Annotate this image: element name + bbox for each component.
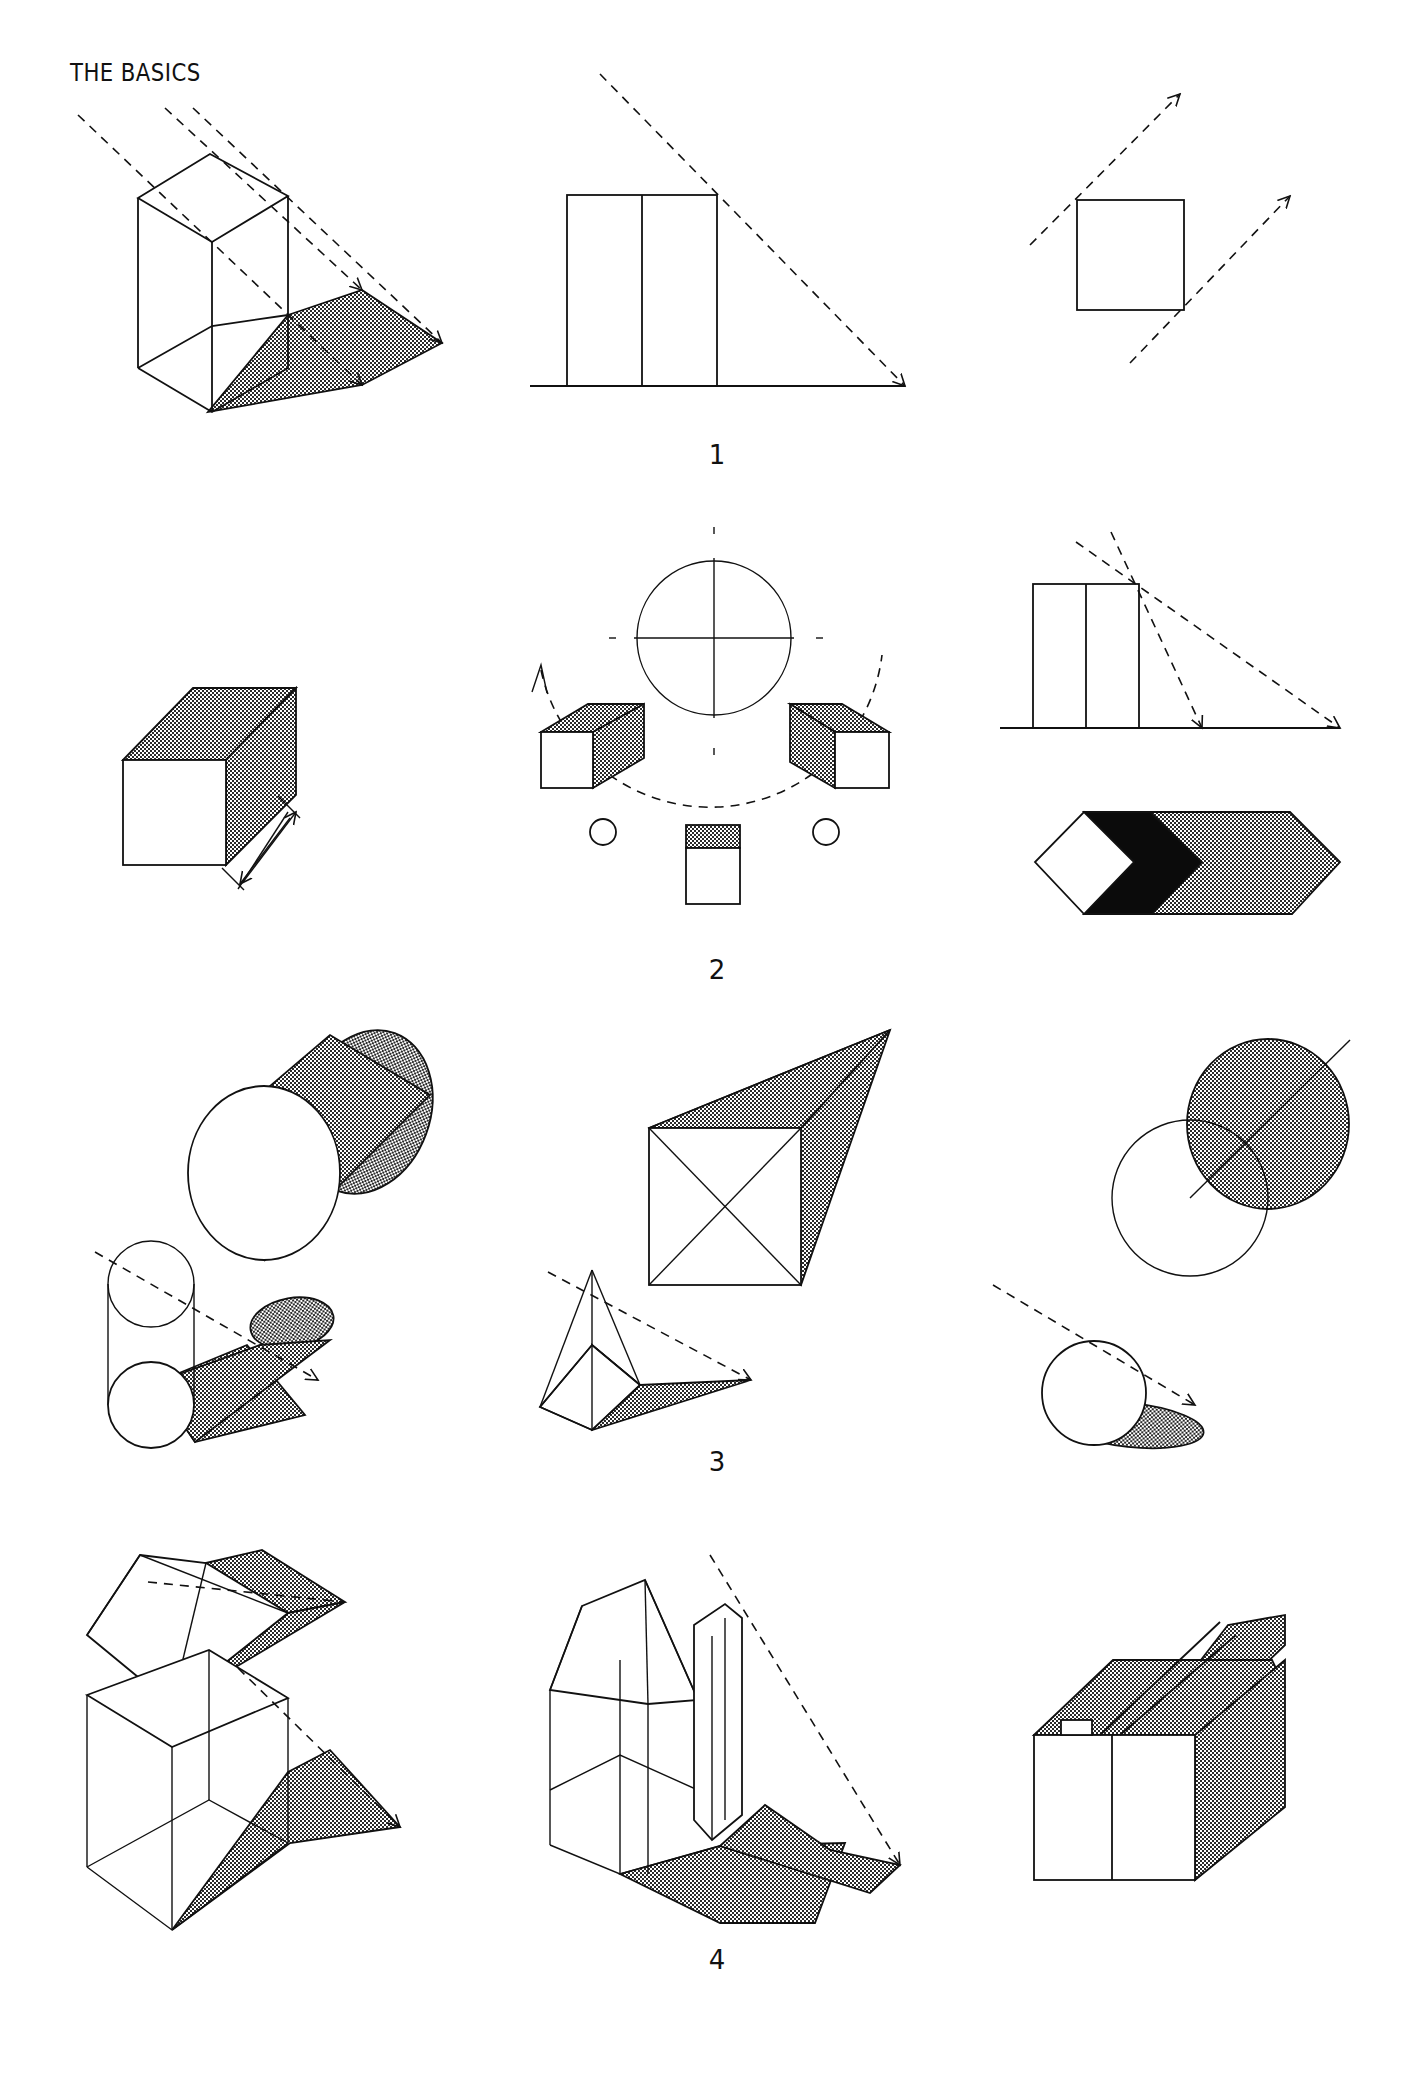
figure-2-elevation-and-plan <box>1000 532 1340 914</box>
figure-4-rendered-house <box>1034 1615 1285 1880</box>
figure-3-square-and-pyramid <box>540 1030 890 1430</box>
figure-2-shaded-box <box>123 688 300 890</box>
figure-4-house-with-chimney <box>550 1555 900 1923</box>
figure-1-elevation <box>530 74 905 386</box>
figure-1-isometric-box <box>78 108 442 412</box>
sun-icon-left <box>590 819 616 845</box>
sun-icon-right <box>813 819 839 845</box>
illustration-canvas <box>0 0 1406 2080</box>
figure-3-disc-and-cylinder <box>95 1011 455 1448</box>
figure-2-sun-path <box>532 527 889 904</box>
figure-1-plan <box>1030 94 1290 363</box>
figure-3-circle-and-sphere <box>993 1039 1350 1455</box>
figure-4-roof-and-box <box>87 1550 400 1930</box>
